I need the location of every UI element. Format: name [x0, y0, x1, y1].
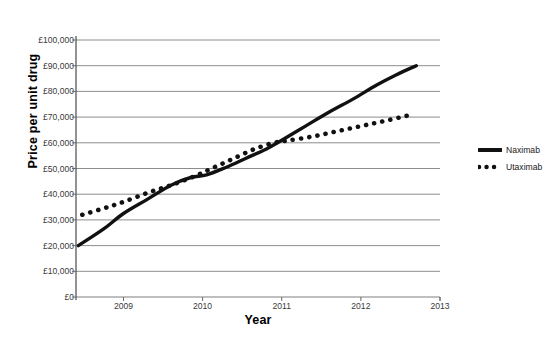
legend-swatch-dotted	[478, 162, 502, 172]
legend-item-utaximab[interactable]: Utaximab	[478, 158, 550, 175]
legend-label: Naximab	[506, 145, 540, 155]
x-axis-tick-label: 2013	[410, 301, 470, 311]
x-axis-tick-label: 2011	[252, 301, 312, 311]
axis-lines	[72, 36, 76, 300]
legend-label: Utaximab	[506, 162, 542, 172]
plot-area	[0, 0, 553, 345]
legend-swatch-solid	[478, 145, 502, 155]
series-line-utaximab	[82, 115, 412, 215]
x-axis-tick-label: 2009	[93, 301, 153, 311]
legend-item-naximab[interactable]: Naximab	[478, 141, 550, 158]
chart-legend: NaximabUtaximab	[478, 141, 550, 175]
x-axis-tick-label: 2010	[173, 301, 233, 311]
line-chart: Price per unit drug £100,000£90,000£80,0…	[0, 0, 553, 345]
series-line-naximab	[78, 66, 416, 246]
x-axis-tick-label: 2012	[331, 301, 391, 311]
x-axis-title: Year	[76, 313, 440, 327]
data-series-layer	[78, 66, 416, 246]
